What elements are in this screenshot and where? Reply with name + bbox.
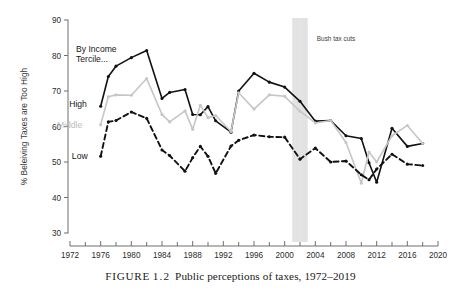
series-point [421,164,424,167]
series-line-high [101,51,423,183]
series-point [237,139,240,142]
series-point [214,114,217,117]
series-point [283,86,286,89]
series-point [344,134,347,137]
x-axis-tick-label: 1992 [214,251,233,260]
figure-caption-number: 1.2 [153,270,170,282]
series-point [406,145,409,148]
figure-caption-tag: FIGURE [105,270,150,282]
series-point [107,120,110,123]
series-point [183,170,186,173]
series-point [214,119,217,122]
series-point [344,159,347,162]
series-point [214,172,217,175]
x-axis-tick-label: 2012 [368,251,387,260]
series-point [107,95,110,98]
y-axis-tick-label: 30 [52,229,62,238]
series-point [360,137,363,140]
series-point [298,158,301,161]
series-point [283,95,286,98]
series-point [183,88,186,91]
series-point [160,113,163,116]
figure-caption-text: Public perceptions of taxes, 1972–2019 [175,270,356,282]
x-axis-tick-label: 2000 [276,251,295,260]
series-point [199,113,202,116]
x-axis-tick-label: 1980 [122,251,141,260]
series-point [191,128,194,131]
figure-caption: FIGURE 1.2 Public perceptions of taxes, … [0,270,461,282]
series-point [114,93,117,96]
series-point [160,148,163,151]
series-point [145,49,148,52]
series-point [99,105,102,108]
series-point [206,105,209,108]
x-axis-tick-label: 1988 [184,251,203,260]
x-axis-tick-label: 1972 [61,251,80,260]
series-point [367,178,370,181]
series-point [360,182,363,185]
series-point [206,116,209,119]
series-point [283,136,286,139]
series-point [130,94,133,97]
series-point [168,154,171,157]
series-point [329,119,332,122]
series-point [329,160,332,163]
series-point [268,135,271,138]
y-axis-tick-label: 80 [52,52,62,61]
series-point [130,56,133,59]
series-point [114,119,117,122]
y-axis-title: % Beleiving Taxes are Too High [19,67,29,185]
series-point [375,168,378,171]
series-point [206,155,209,158]
series-point [237,91,240,94]
legend-title-line1: By Income [76,44,117,54]
y-axis-tick-label: 70 [52,87,62,96]
figure-container: 30405060708090% Beleiving Taxes are Too … [0,0,461,300]
series-point [114,65,117,68]
series-point [252,133,255,136]
series-high [99,49,424,184]
series-line-middle [101,79,423,184]
series-point [160,97,163,100]
y-axis-tick-label: 40 [52,194,62,203]
series-point [99,155,102,158]
series-label-high: High [69,99,87,109]
series-point [421,142,424,145]
series-point [390,127,393,130]
series-point [268,81,271,84]
x-axis: 1972197619801984198819921996200020042008… [61,241,448,260]
series-point [367,151,370,154]
x-axis-tick-label: 2020 [429,251,448,260]
series-point [344,141,347,144]
series-point [252,72,255,75]
series-point [252,108,255,111]
x-axis-tick-label: 2004 [306,251,325,260]
series-point [168,120,171,123]
legend-title-line2: Tercile... [76,54,108,64]
series-point [314,121,317,124]
series-point [375,181,378,184]
y-axis-tick-label: 50 [52,158,62,167]
x-axis-tick-label: 2008 [337,251,356,260]
series-point [268,93,271,96]
series-point [406,163,409,166]
series-point [199,145,202,148]
series-point [298,100,301,103]
series-point [360,173,363,176]
series-point [229,144,232,147]
series-point [191,113,194,116]
chart-canvas: 30405060708090% Beleiving Taxes are Too … [0,0,461,268]
legend-title: By IncomeTercile... [76,44,117,64]
series-point [168,91,171,94]
series-low [99,110,424,181]
series-point [145,117,148,120]
series-line-low [101,112,423,180]
series-point [406,124,409,127]
series-point [367,161,370,164]
series-point [145,77,148,80]
series-point [298,110,301,113]
series-point [183,109,186,112]
annotation-band-bush-tax-cuts [292,18,307,242]
series-label-low: Low [72,151,89,161]
x-axis-tick-label: 2016 [398,251,417,260]
